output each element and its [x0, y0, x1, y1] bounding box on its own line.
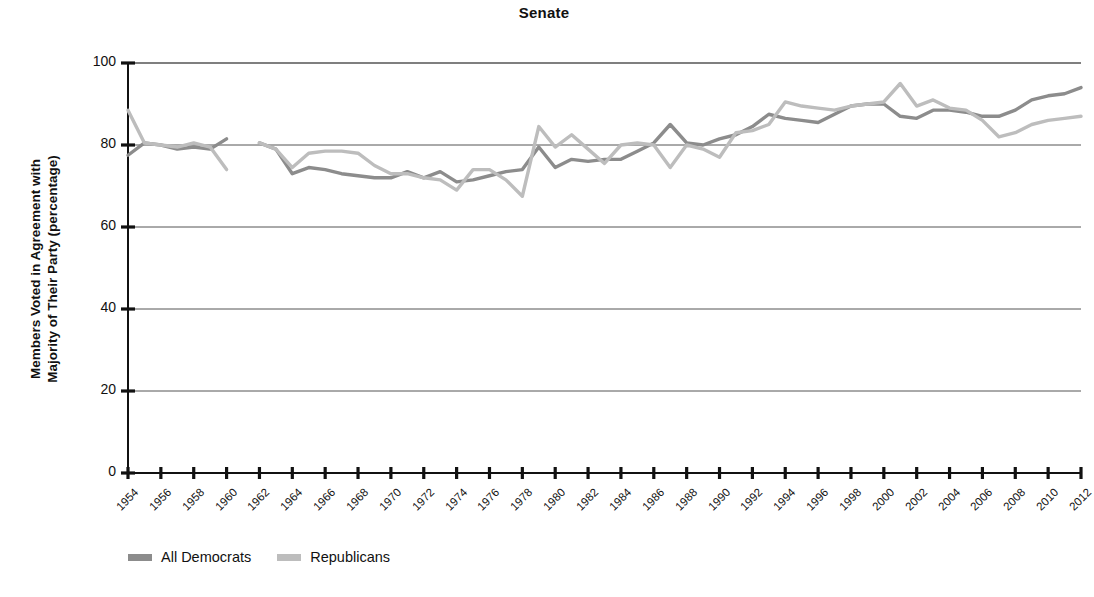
legend-item-democrats: All Democrats [128, 549, 251, 565]
legend-swatch-democrats [128, 554, 152, 561]
legend-label-republicans: Republicans [310, 549, 390, 565]
series-line-republicans [128, 110, 227, 169]
legend-label-democrats: All Democrats [161, 549, 251, 565]
chart-legend: All Democrats Republicans [128, 549, 390, 565]
legend-swatch-republicans [277, 554, 301, 561]
y-axis-tick-label: 20 [70, 381, 116, 397]
legend-item-republicans: Republicans [277, 549, 390, 565]
y-axis-tick-label: 60 [70, 217, 116, 233]
y-axis-tick-label: 0 [70, 463, 116, 479]
y-axis-tick-label: 80 [70, 135, 116, 151]
y-axis-tick-label: 40 [70, 299, 116, 315]
y-axis-tick-label: 100 [70, 53, 116, 69]
